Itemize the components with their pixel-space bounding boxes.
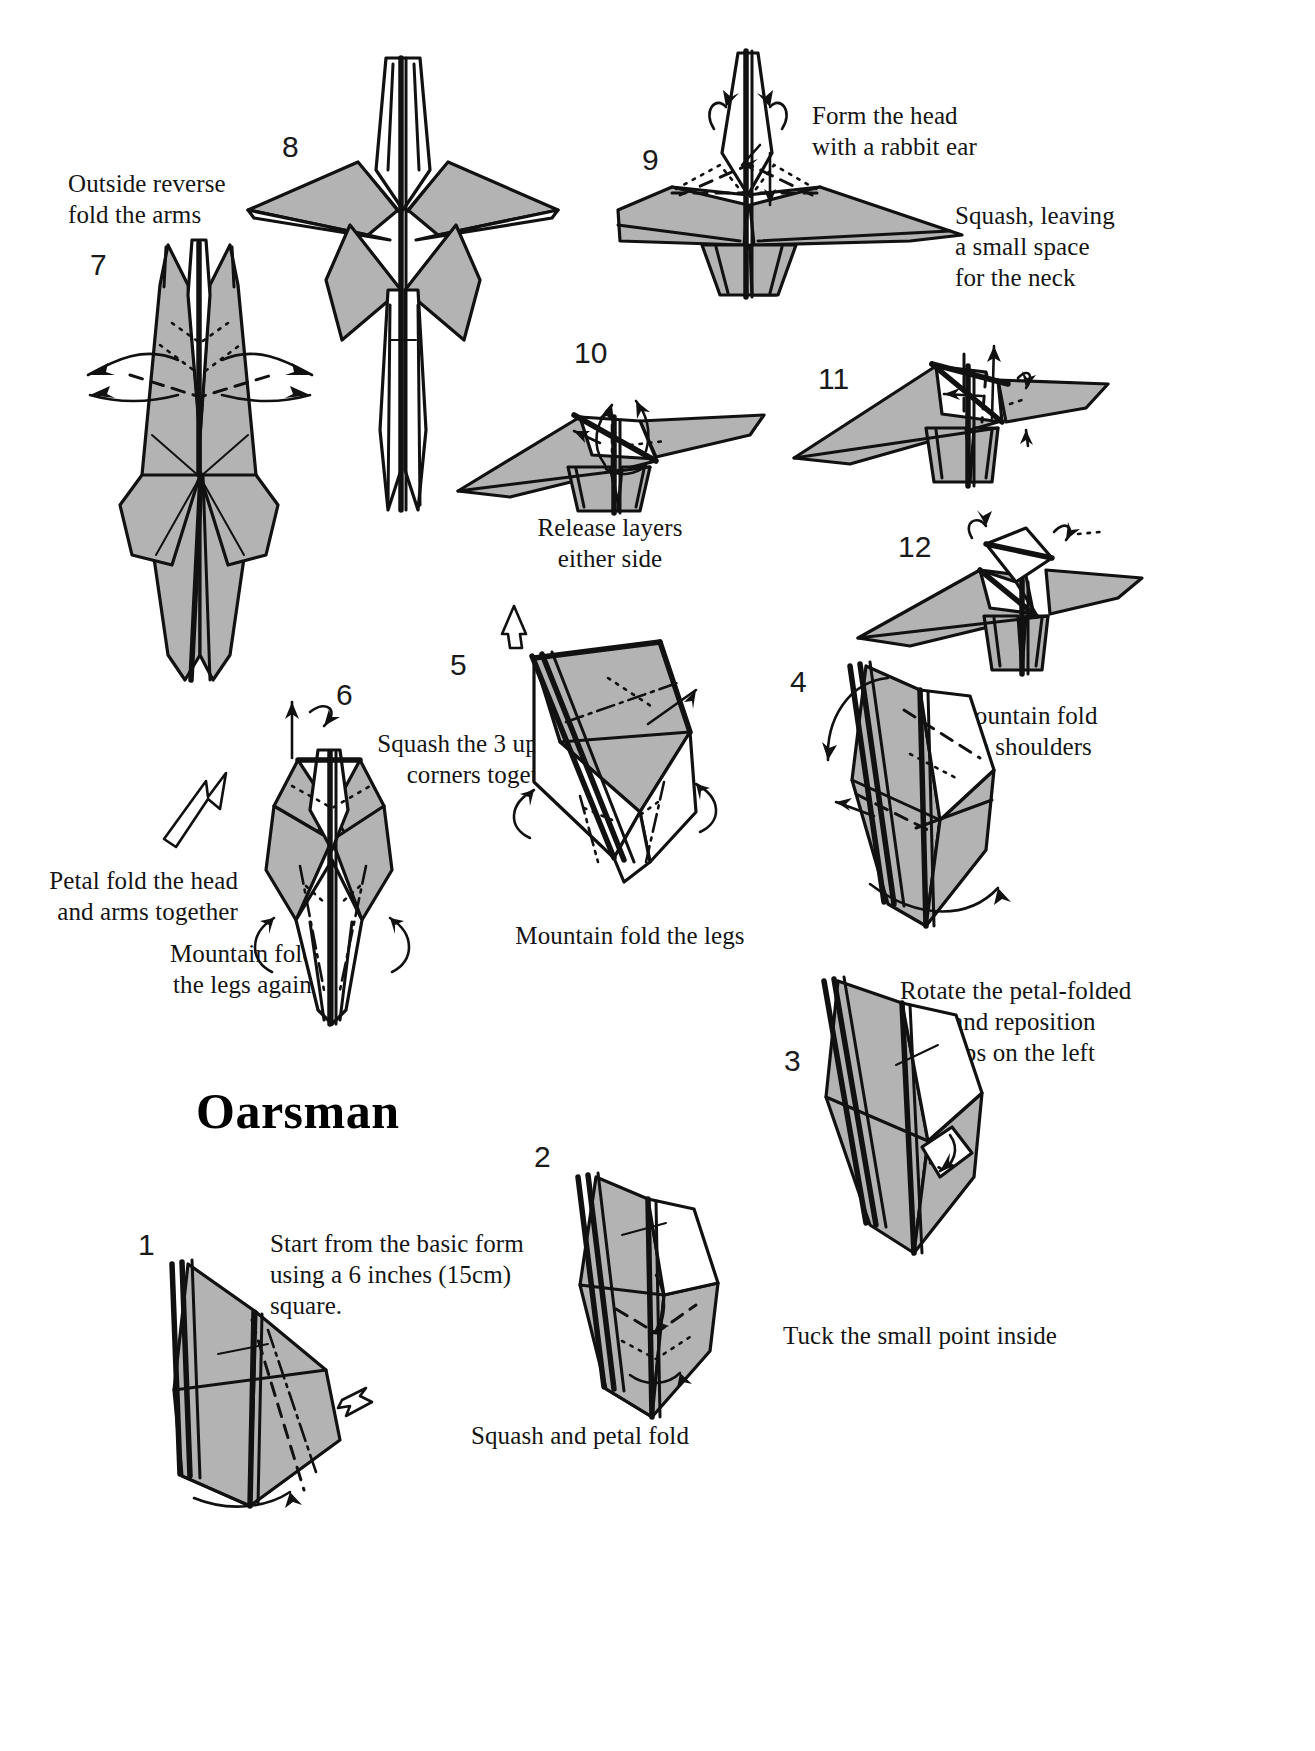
page-title: Oarsman bbox=[196, 1082, 400, 1140]
figure-step-3 bbox=[810, 965, 1040, 1275]
step-number-2: 2 bbox=[534, 1140, 551, 1174]
step-5-caption: Mountain fold the legs bbox=[495, 920, 765, 951]
turn-over-arrow-icon bbox=[150, 765, 240, 855]
figure-step-1 bbox=[150, 1250, 390, 1540]
figure-step-4 bbox=[810, 650, 1050, 950]
figure-step-5 bbox=[490, 612, 750, 902]
origami-instruction-page: 7 Outside reverse fold the arms bbox=[0, 0, 1315, 1751]
step-number-5: 5 bbox=[450, 648, 467, 682]
figure-step-6 bbox=[240, 690, 430, 1030]
figure-step-10 bbox=[450, 365, 770, 515]
step-6-caption-secondary: Petal fold the head and arms together bbox=[48, 865, 238, 927]
step-7-caption: Outside reverse fold the arms bbox=[68, 168, 226, 230]
figure-step-9 bbox=[610, 45, 970, 305]
figure-step-2 bbox=[560, 1165, 770, 1435]
step-3-caption: Tuck the small point inside bbox=[760, 1320, 1080, 1351]
step-10-caption: Release layers either side bbox=[495, 512, 725, 574]
figure-step-11 bbox=[786, 318, 1116, 488]
step-9-caption-secondary: Squash, leaving a small space for the ne… bbox=[955, 200, 1115, 293]
step-number-3: 3 bbox=[784, 1044, 801, 1078]
step-number-4: 4 bbox=[790, 665, 807, 699]
